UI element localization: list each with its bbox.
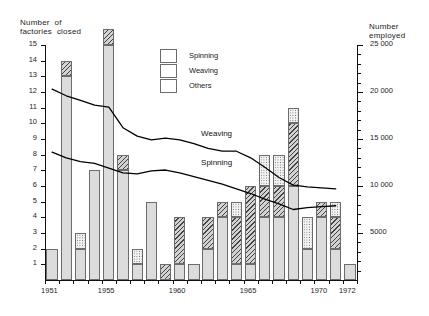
y-tick-label-left-6: 6: [22, 181, 37, 190]
x-tick-1955: [102, 280, 103, 284]
y-tick-label-left-2: 2: [22, 244, 37, 253]
y-tick-right-minor-11000: [358, 177, 361, 178]
y-tick-right-minor-3000: [358, 252, 361, 253]
y-tick-right-minor-12000: [358, 167, 361, 168]
y-tick-label-left-7: 7: [22, 165, 37, 174]
y-axis-title-right-line1: Number: [369, 22, 399, 31]
x-tick-1958: [144, 280, 145, 284]
x-tick-label-1960: 1960: [169, 287, 186, 296]
legend-label-weaving: Weaving: [189, 66, 218, 75]
y-axis-title-left: Number offactories closed: [20, 18, 81, 36]
legend-swatch-others: [160, 79, 177, 93]
y-tick-label-left-8: 8: [22, 150, 37, 159]
y-tick-left-13: [41, 76, 45, 77]
y-tick-right-5000: [358, 233, 363, 234]
x-tick-1972: [343, 280, 344, 284]
y-tick-label-left-5: 5: [22, 197, 37, 206]
y-tick-left-1: [41, 264, 45, 265]
y-tick-label-left-3: 3: [22, 228, 37, 237]
x-tick-1951: [45, 280, 46, 284]
legend-swatch-weaving: [160, 64, 177, 78]
legend-label-others: Others: [189, 81, 212, 90]
y-tick-label-right-25000: 25 000: [370, 40, 393, 49]
y-tick-label-left-12: 12: [22, 87, 37, 96]
trend-line-spinning: [52, 152, 336, 209]
legend-label-spinning: Spinning: [189, 51, 218, 60]
weaving-line-label: Weaving: [201, 129, 232, 138]
y-axis-right-line: [357, 45, 358, 280]
x-tick-1968: [286, 280, 287, 284]
x-tick-1954: [88, 280, 89, 284]
y-tick-right-10000: [358, 186, 363, 187]
y-tick-left-10: [41, 123, 45, 124]
y-tick-label-right-20000: 20 000: [370, 87, 393, 96]
bar-segment-weaving-1955: [103, 29, 114, 45]
y-tick-left-3: [41, 233, 45, 234]
y-tick-left-2: [41, 249, 45, 250]
x-tick-1969: [300, 280, 301, 284]
x-tick-label-1951: 1951: [41, 287, 58, 296]
y-tick-label-left-13: 13: [22, 71, 37, 80]
x-tick-1964: [229, 280, 230, 284]
x-tick-1957: [130, 280, 131, 284]
y-tick-right-15000: [358, 139, 363, 140]
x-tick-label-1965: 1965: [240, 287, 257, 296]
x-tick-1959: [158, 280, 159, 284]
x-tick-1963: [215, 280, 216, 284]
x-tick-1961: [187, 280, 188, 284]
x-tick-1965: [244, 280, 245, 284]
y-tick-right-minor-17000: [358, 120, 361, 121]
x-tick-label-1970: 1970: [311, 287, 328, 296]
y-tick-label-left-1: 1: [22, 259, 37, 268]
y-axis-title-left-line2: factories closed: [20, 27, 81, 36]
legend-swatch-spinning: [160, 49, 177, 63]
y-tick-right-minor-16000: [358, 130, 361, 131]
y-tick-right-minor-4000: [358, 242, 361, 243]
y-tick-right-minor-9000: [358, 195, 361, 196]
x-tick-label-1972: 1972: [339, 287, 356, 296]
y-tick-right-minor-18000: [358, 111, 361, 112]
y-tick-right-minor-13000: [358, 158, 361, 159]
y-tick-label-left-11: 11: [22, 103, 37, 112]
y-tick-right-minor-7000: [358, 214, 361, 215]
y-tick-right-minor-2000: [358, 261, 361, 262]
y-tick-left-6: [41, 186, 45, 187]
y-tick-left-4: [41, 217, 45, 218]
x-tick-1960: [173, 280, 174, 284]
y-tick-label-left-15: 15: [22, 40, 37, 49]
y-tick-right-minor-21000: [358, 83, 361, 84]
y-tick-label-left-14: 14: [22, 56, 37, 65]
y-tick-left-12: [41, 92, 45, 93]
y-tick-left-11: [41, 108, 45, 109]
y-axis-title-left-line1: Number of: [20, 18, 62, 27]
x-tick-1953: [73, 280, 74, 284]
y-tick-right-minor-22000: [358, 73, 361, 74]
y-tick-left-9: [41, 139, 45, 140]
y-tick-left-8: [41, 155, 45, 156]
y-tick-left-7: [41, 170, 45, 171]
x-tick-1966: [258, 280, 259, 284]
y-tick-label-left-10: 10: [22, 118, 37, 127]
y-tick-right-minor-23000: [358, 64, 361, 65]
x-tick-end: [357, 280, 358, 284]
y-tick-label-right-15000: 15 000: [370, 134, 393, 143]
y-tick-right-minor-24000: [358, 54, 361, 55]
y-tick-right-minor-6000: [358, 224, 361, 225]
y-tick-left-15: [41, 45, 45, 46]
y-tick-label-right-5000: 5000: [370, 228, 387, 237]
x-tick-1962: [201, 280, 202, 284]
y-tick-label-left-4: 4: [22, 212, 37, 221]
y-tick-label-right-10000: 10 000: [370, 181, 393, 190]
spinning-line-label: Spinning: [201, 158, 232, 167]
x-tick-1971: [329, 280, 330, 284]
x-tick-1952: [59, 280, 60, 284]
y-tick-right-minor-1000: [358, 271, 361, 272]
chart-canvas: Number offactories closed Numberemployed…: [0, 0, 429, 316]
y-tick-right-minor-14000: [358, 148, 361, 149]
y-tick-left-14: [41, 61, 45, 62]
x-tick-label-1955: 1955: [98, 287, 115, 296]
trend-line-weaving: [52, 89, 336, 189]
y-tick-right-20000: [358, 92, 363, 93]
y-tick-right-minor-8000: [358, 205, 361, 206]
y-tick-right-25000: [358, 45, 363, 46]
